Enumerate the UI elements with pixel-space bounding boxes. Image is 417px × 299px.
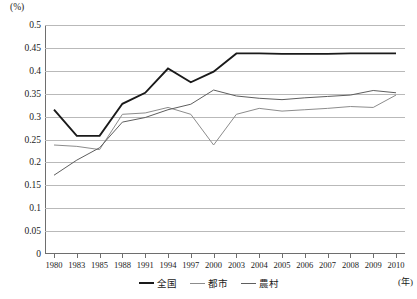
y-axis-tick-label: 0.2 — [29, 157, 41, 167]
x-axis-tick-label: 1983 — [68, 260, 85, 270]
y-axis-tick-label: 0.1 — [29, 203, 41, 213]
legend-label: 全国 — [157, 276, 177, 290]
chart-legend: 全国都市農村 — [0, 276, 417, 290]
y-axis-tick-label: 0.5 — [29, 20, 41, 30]
x-axis-tick-mark — [214, 254, 215, 258]
y-axis-tick-label: 0.3 — [29, 112, 41, 122]
x-axis-tick-label: 2008 — [342, 260, 359, 270]
x-axis-tick-mark — [100, 254, 101, 258]
x-axis-tick-label: 2009 — [365, 260, 382, 270]
x-axis-tick-mark — [145, 254, 146, 258]
x-axis-tick-mark — [282, 254, 283, 258]
y-axis-tick-label: 0 — [36, 249, 41, 259]
x-axis-tick-label: 2003 — [228, 260, 245, 270]
y-axis-tick-label: 0.35 — [24, 89, 41, 99]
series-line-全国 — [54, 53, 396, 135]
x-axis-tick-label: 1985 — [91, 260, 108, 270]
x-axis-tick-label: 1994 — [160, 260, 177, 270]
x-axis-tick-mark — [168, 254, 169, 258]
y-axis-unit-label: (%) — [10, 2, 24, 13]
x-axis-tick-mark — [54, 254, 55, 258]
x-axis-tick-mark — [236, 254, 237, 258]
x-axis-tick-label: 2004 — [251, 260, 268, 270]
x-axis-tick-label: 1997 — [182, 260, 199, 270]
legend-swatch-line-icon — [190, 283, 205, 284]
series-lines — [45, 25, 405, 254]
x-axis-tick-mark — [396, 254, 397, 258]
legend-label: 農村 — [259, 276, 279, 290]
x-axis-tick-label: 2006 — [296, 260, 313, 270]
legend-item-全国[interactable]: 全国 — [139, 276, 177, 290]
x-axis-tick-label: 2010 — [388, 260, 405, 270]
x-axis-tick-label: 2007 — [319, 260, 336, 270]
legend-swatch-line-icon — [241, 283, 256, 284]
y-axis-tick-label: 0.05 — [24, 226, 41, 236]
x-axis-tick-mark — [191, 254, 192, 258]
y-axis-tick-label: 0.15 — [24, 180, 41, 190]
legend-label: 都市 — [208, 276, 228, 290]
x-axis-tick-label: 1980 — [46, 260, 63, 270]
legend-item-都市[interactable]: 都市 — [190, 276, 228, 290]
series-line-農村 — [54, 90, 396, 175]
x-axis-tick-label: 2005 — [274, 260, 291, 270]
x-axis-tick-mark — [122, 254, 123, 258]
x-axis-tick-label: 1988 — [114, 260, 131, 270]
legend-item-農村[interactable]: 農村 — [241, 276, 279, 290]
y-axis-tick-labels: 0.50.450.40.350.30.250.20.150.10.050 — [0, 25, 41, 254]
x-axis-tick-label: 2000 — [205, 260, 222, 270]
chart-container: (%) 0.50.450.40.350.30.250.20.150.10.050… — [0, 0, 417, 299]
x-axis-tick-mark — [350, 254, 351, 258]
x-axis-tick-mark — [305, 254, 306, 258]
y-axis-tick-label: 0.25 — [24, 135, 41, 145]
x-axis-tick-mark — [373, 254, 374, 258]
x-axis-tick-label: 1991 — [137, 260, 154, 270]
y-axis-tick-label: 0.45 — [24, 43, 41, 53]
legend-swatch-line-icon — [139, 282, 154, 284]
x-axis-tick-mark — [328, 254, 329, 258]
plot-area — [45, 25, 405, 254]
y-axis-tick-label: 0.4 — [29, 66, 41, 76]
x-axis-tick-mark — [77, 254, 78, 258]
x-axis-tick-mark — [259, 254, 260, 258]
